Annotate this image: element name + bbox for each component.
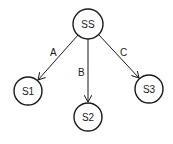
node-label-s2: S2 bbox=[82, 112, 95, 123]
node-s3: S3 bbox=[135, 75, 163, 103]
edge-label-b: B bbox=[78, 67, 85, 78]
edge-a: A bbox=[38, 35, 78, 80]
node-ss: SS bbox=[73, 9, 103, 39]
edge-label-c: C bbox=[120, 47, 127, 58]
edge-c: C bbox=[99, 35, 139, 78]
node-label-s1: S1 bbox=[22, 86, 35, 97]
node-label-s3: S3 bbox=[143, 84, 156, 95]
diagram: A B C SS S1 S2 S3 bbox=[0, 0, 173, 144]
node-s1: S1 bbox=[14, 77, 42, 105]
node-s2: S2 bbox=[74, 103, 102, 131]
node-label-ss: SS bbox=[81, 19, 95, 30]
edge-label-a: A bbox=[50, 47, 57, 58]
edge-b: B bbox=[78, 39, 88, 102]
